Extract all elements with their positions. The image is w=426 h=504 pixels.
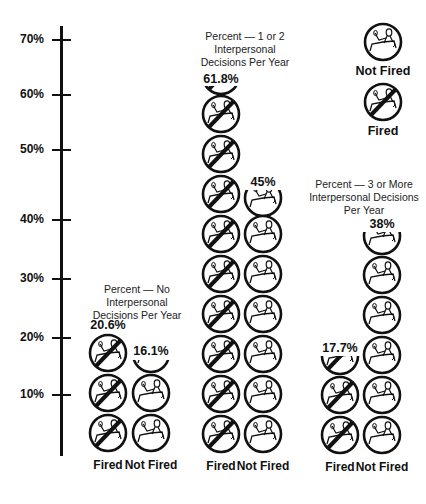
person-at-desk-icon [362, 255, 402, 295]
legend-label-not-fired: Not Fired [353, 64, 413, 78]
person-at-desk-crossed-icon [201, 294, 241, 334]
y-axis-line [60, 26, 63, 456]
value-label-fired: 17.7% [315, 341, 365, 355]
column-label-not-fired: Not Fired [233, 459, 293, 473]
person-at-desk-crossed-icon [320, 415, 360, 455]
group-title: Percent — 1 or 2 Interpersonal Decisions… [190, 30, 300, 69]
person-at-desk-crossed-icon [320, 375, 360, 415]
y-tick-50 [52, 149, 71, 151]
y-tick-10 [52, 394, 71, 396]
person-at-desk-crossed-icon [201, 214, 241, 254]
person-at-desk-crossed-icon [201, 94, 241, 134]
person-at-desk-crossed-icon [88, 373, 128, 413]
value-label-fired: 20.6% [83, 318, 133, 332]
value-label-not-fired: 45% [238, 175, 288, 189]
y-tick-30 [52, 278, 71, 280]
person-at-desk-crossed-icon [201, 374, 241, 414]
y-tick-label: 50% [0, 142, 44, 156]
person-at-desk-icon [243, 414, 283, 454]
group-title-line: Percent — 1 or 2 [190, 30, 300, 43]
column-label-not-fired: Not Fired [352, 460, 412, 474]
value-label-not-fired: 38% [357, 217, 407, 231]
person-at-desk-partial-icon [131, 360, 171, 374]
y-tick-label: 70% [0, 32, 44, 46]
group-title-line: Decisions Per Year [190, 56, 300, 69]
person-at-desk-icon [131, 413, 171, 453]
group-title-line: Percent — No Interpersonal [72, 283, 202, 309]
person-at-desk-crossed-icon [201, 334, 241, 374]
person-at-desk-crossed-icon [201, 134, 241, 174]
y-tick-60 [52, 94, 71, 96]
person-at-desk-icon [243, 294, 283, 334]
group-title-line: Per Year [305, 204, 423, 217]
person-at-desk-icon [243, 374, 283, 414]
person-at-desk-crossed-icon [88, 413, 128, 453]
person-at-desk-icon [243, 214, 283, 254]
person-at-desk-crossed-icon [88, 333, 128, 373]
y-tick-label: 60% [0, 87, 44, 101]
value-label-fired: 61.8% [196, 72, 246, 86]
group-title-line: Interpersonal Decisions [305, 191, 423, 204]
y-tick-40 [52, 219, 71, 221]
y-tick-label: 40% [0, 212, 44, 226]
y-tick-20 [52, 337, 71, 339]
person-at-desk-crossed-partial-icon [320, 356, 360, 376]
column-label-not-fired: Not Fired [121, 458, 181, 472]
person-at-desk-icon [362, 335, 402, 375]
group-title-line: Percent — 3 or More [305, 178, 423, 191]
group-title-line: Interpersonal [190, 43, 300, 56]
person-at-desk-icon [362, 415, 402, 455]
person-at-desk-crossed-icon [201, 174, 241, 214]
person-at-desk-icon [243, 254, 283, 294]
legend-label-fired: Fired [353, 124, 413, 138]
value-label-not-fired: 16.1% [126, 344, 176, 358]
person-at-desk-crossed-icon [201, 254, 241, 294]
person-at-desk-partial-icon [362, 232, 402, 256]
y-tick-label: 10% [0, 387, 44, 401]
person-at-desk-icon [362, 295, 402, 335]
group-title: Percent — 3 or More Interpersonal Decisi… [305, 178, 423, 217]
y-tick-70 [52, 39, 71, 41]
person-at-desk-icon [363, 22, 403, 62]
group-title: Percent — No Interpersonal Decisions Per… [72, 283, 202, 322]
person-at-desk-crossed-icon [363, 82, 403, 122]
y-tick-label: 20% [0, 330, 44, 344]
person-at-desk-icon [131, 373, 171, 413]
person-at-desk-icon [243, 334, 283, 374]
person-at-desk-icon [362, 375, 402, 415]
y-tick-label: 30% [0, 271, 44, 285]
person-at-desk-crossed-icon [201, 414, 241, 454]
